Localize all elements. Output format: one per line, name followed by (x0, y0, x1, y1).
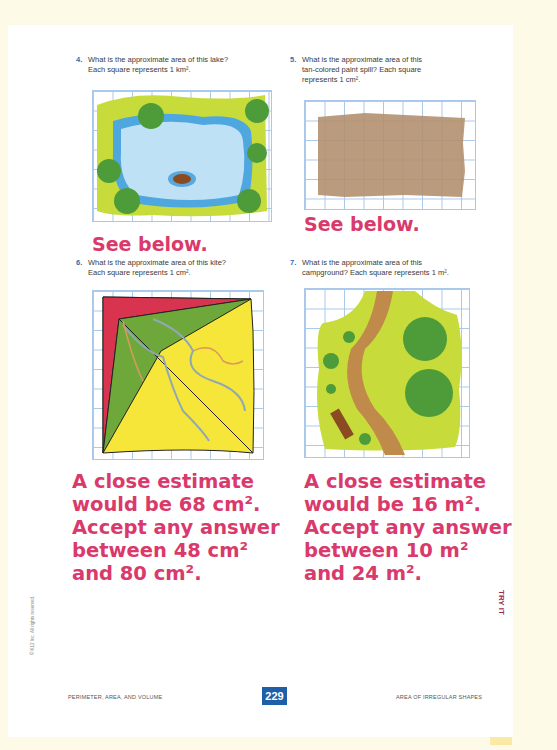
question-text: tan-colored paint spill? Each square (302, 65, 502, 75)
answer-line: and 24 m². (304, 562, 512, 585)
question-text: What is the approximate area of this lak… (88, 55, 288, 65)
paint-spill-illustration (305, 101, 475, 209)
question-text: represents 1 cm². (302, 75, 502, 85)
question-number: 5. (290, 55, 296, 65)
footer-left: PERIMETER, AREA, AND VOLUME (68, 694, 162, 700)
question-4: 4. What is the approximate area of this … (88, 55, 288, 75)
question-text: Each square represents 1 km². (88, 65, 288, 75)
answer-line: Accept any answer (72, 516, 280, 539)
answer-q7: A close estimate would be 16 m². Accept … (304, 470, 512, 585)
question-text: Each square represents 1 cm². (88, 268, 288, 278)
try-it-tab: TRY IT (494, 590, 508, 618)
footer-right: AREA OF IRREGULAR SHAPES (396, 694, 482, 700)
question-number: 4. (76, 55, 82, 65)
question-number: 7. (290, 258, 296, 268)
copyright-notice: © K12 Inc. All rights reserved. (30, 596, 35, 655)
page-number: 229 (262, 687, 287, 705)
lake-figure (92, 90, 272, 222)
question-number: 6. (76, 258, 82, 268)
answer-line: A close estimate (304, 470, 512, 493)
question-5: 5. What is the approximate area of this … (302, 55, 502, 85)
answer-q4: See below. (92, 233, 208, 255)
question-text: campground? Each square represents 1 m². (302, 268, 502, 278)
kite-figure (92, 290, 264, 460)
question-7: 7. What is the approximate area of this … (302, 258, 502, 278)
campground-figure (304, 288, 470, 458)
kite-illustration (93, 291, 263, 459)
answer-line: A close estimate (72, 470, 280, 493)
answer-q5: See below. (304, 213, 420, 235)
question-text: What is the approximate area of this kit… (88, 258, 288, 268)
answer-line: would be 16 m². (304, 493, 512, 516)
answer-line: would be 68 cm². (72, 493, 280, 516)
answer-line: and 80 cm². (72, 562, 280, 585)
paint-spill-figure (304, 100, 476, 210)
answer-q6: A close estimate would be 68 cm². Accept… (72, 470, 280, 585)
question-text: What is the approximate area of this (302, 55, 502, 65)
answer-line: between 10 m² (304, 539, 512, 562)
question-6: 6. What is the approximate area of this … (88, 258, 288, 278)
try-it-label: TRY IT (496, 590, 507, 615)
answer-line: between 48 cm² (72, 539, 280, 562)
question-text: What is the approximate area of this (302, 258, 502, 268)
answer-line: Accept any answer (304, 516, 512, 539)
campground-illustration (305, 289, 469, 457)
lake-illustration (93, 91, 271, 221)
